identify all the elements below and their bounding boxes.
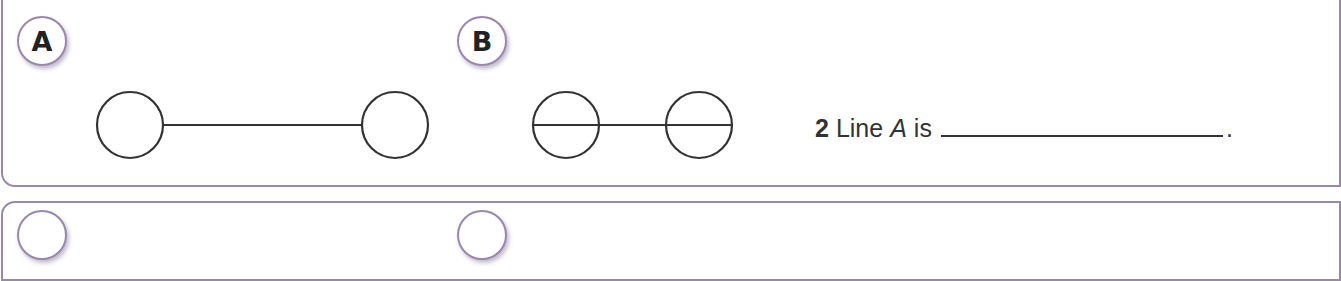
question-text-before: Line xyxy=(836,114,883,143)
question-number: 2 xyxy=(815,114,829,143)
diagram-b xyxy=(533,92,732,158)
question-2: 2 Line A is . xyxy=(815,114,1233,143)
question-variable: A xyxy=(890,114,907,143)
diagram-a-left-circle-icon xyxy=(97,92,163,158)
diagram-a-right-circle-icon xyxy=(362,92,428,158)
diagram-a xyxy=(97,92,428,158)
question-text-after: is xyxy=(914,114,932,143)
answer-blank[interactable] xyxy=(941,115,1223,137)
question-end: . xyxy=(1226,114,1233,143)
